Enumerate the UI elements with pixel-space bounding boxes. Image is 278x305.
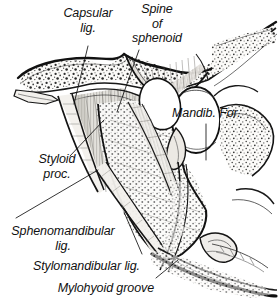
sphenomandibular-ligament-label-line-1: Sphenomandibular (4, 224, 122, 239)
sphenomandibular-ligament-label: Sphenomandibular lig. (4, 224, 122, 253)
mandibular-foramen-label-line-1: Mandib. For. (172, 106, 268, 121)
capsular-ligament-label-line-1: Capsular (52, 6, 124, 21)
mandibular-foramen-label: Mandib. For. (172, 106, 268, 121)
spine-of-sphenoid-label-line-2: of (126, 17, 188, 32)
mylohyoid-groove-label: Mylohyoid groove (30, 281, 154, 296)
sphenomandibular-ligament-label-line-2: lig. (4, 239, 122, 254)
stylomandibular-ligament-label: Stylomandibular lig. (12, 259, 140, 274)
spine-of-sphenoid-label-line-3: sphenoid (126, 31, 188, 46)
capsular-ligament-label-line-2: lig. (52, 21, 124, 36)
mylohyoid-groove-label-line-1: Mylohyoid groove (30, 281, 154, 296)
anatomy-figure: Capsular lig. Spine of sphenoid Mandib. … (0, 0, 278, 305)
styloid-process-label: Styloid proc. (28, 152, 86, 181)
capsular-ligament-label: Capsular lig. (52, 6, 124, 35)
spine-of-sphenoid-label-line-1: Spine (126, 2, 188, 17)
styloid-process-label-line-1: Styloid (28, 152, 86, 167)
stylomandibular-ligament-label-line-1: Stylomandibular lig. (12, 259, 140, 274)
spine-of-sphenoid-label: Spine of sphenoid (126, 2, 188, 46)
styloid-process-label-line-2: proc. (28, 167, 86, 182)
